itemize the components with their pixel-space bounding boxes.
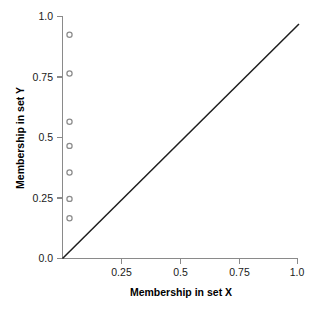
diagonal-reference-line <box>63 24 300 259</box>
x-tick-label-1: 0.5 <box>173 266 188 278</box>
x-axis-ticks <box>122 259 298 265</box>
x-tick-label-3: 1.0 <box>290 266 305 278</box>
data-point <box>67 196 72 201</box>
data-point <box>67 119 72 124</box>
y-tick-label-4: 1.0 <box>38 10 53 22</box>
y-tick-label-1: 0.25 <box>33 192 54 204</box>
y-tick-label-0: 0.0 <box>38 252 53 264</box>
y-tick-label-3: 0.75 <box>33 71 54 83</box>
data-point-group <box>67 32 72 221</box>
data-point <box>67 170 72 175</box>
data-point <box>67 216 72 221</box>
data-point <box>67 71 72 76</box>
y-axis-ticks <box>57 17 63 259</box>
data-point <box>67 143 72 148</box>
chart-canvas: 0.0 0.25 0.5 0.75 1.0 0.25 0.5 0.75 1.0 <box>0 0 321 309</box>
x-tick-label-0: 0.25 <box>111 266 132 278</box>
x-axis-title: Membership in set X <box>130 286 232 298</box>
data-point <box>67 32 72 37</box>
y-tick-label-2: 0.5 <box>38 131 53 143</box>
y-axis-title: Membership in set Y <box>14 87 26 189</box>
scatter-chart: 0.0 0.25 0.5 0.75 1.0 0.25 0.5 0.75 1.0 <box>0 0 321 309</box>
x-tick-label-2: 0.75 <box>229 266 250 278</box>
